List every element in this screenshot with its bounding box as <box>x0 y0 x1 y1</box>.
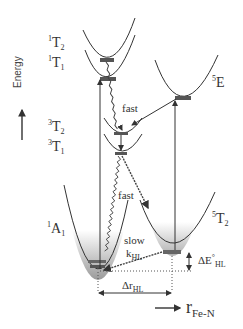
label-5e: 5E <box>212 76 225 90</box>
label-3t2: 3T2 <box>48 120 65 134</box>
1t2-levels <box>100 58 114 62</box>
x-axis-label: rFe-N <box>186 298 215 316</box>
label-fast-lower: fast <box>118 190 134 201</box>
5e-levels <box>175 96 191 100</box>
5e-curve <box>155 55 218 96</box>
3t2-levels <box>114 132 128 135</box>
label-1t2: 1T2 <box>48 36 65 50</box>
label-3t1: 3T1 <box>48 140 65 154</box>
1a1-levels-2 <box>90 265 105 268</box>
y-axis-label: Energy <box>12 48 23 88</box>
1t1-curve <box>85 35 135 77</box>
label-k-hl: kHL <box>126 248 142 259</box>
3t1-curve <box>104 134 142 151</box>
label-1a1: 1A1 <box>47 222 65 236</box>
label-fast-upper: fast <box>122 103 138 114</box>
label-slow: slow <box>124 235 145 246</box>
5e-3t2-arrow <box>132 99 176 125</box>
label-5t2: 5T2 <box>212 212 229 226</box>
3t1-levels <box>115 152 127 155</box>
label-delta-e-hl: ΔE°HL <box>198 255 226 266</box>
1t2-curve <box>83 18 135 57</box>
3t2-curve <box>104 118 142 133</box>
label-1t1: 1T1 <box>48 56 65 70</box>
5t2-levels <box>163 250 181 254</box>
label-delta-r-hl: ΔrHL <box>122 280 143 291</box>
1a1-levels <box>88 260 106 263</box>
